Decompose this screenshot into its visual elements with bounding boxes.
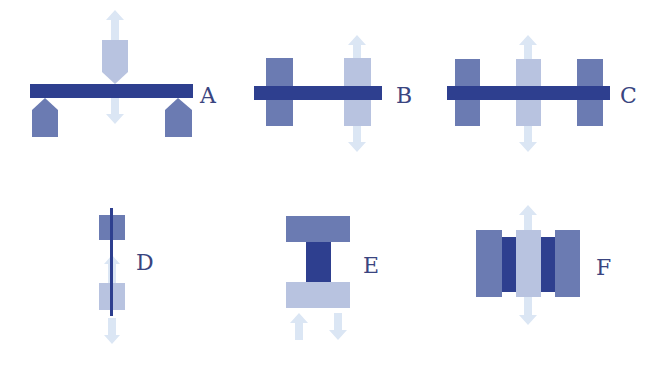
beam-a bbox=[30, 84, 193, 98]
label-f: F bbox=[596, 255, 611, 280]
sample-left-f bbox=[502, 237, 517, 292]
panel-b: B bbox=[254, 35, 412, 152]
arrow-up-f bbox=[519, 205, 537, 230]
panel-e: E bbox=[286, 216, 379, 340]
load-arrow-down-a bbox=[106, 98, 124, 124]
outer-block-left-f bbox=[476, 230, 502, 297]
arrow-down-b bbox=[348, 126, 366, 152]
plate-bottom-e bbox=[286, 282, 350, 308]
label-d: D bbox=[136, 250, 154, 275]
panel-f: F bbox=[476, 205, 611, 325]
label-c: C bbox=[620, 83, 637, 108]
support-right-a bbox=[165, 98, 192, 137]
label-b: B bbox=[396, 83, 412, 108]
beam-b bbox=[254, 86, 382, 100]
panel-d: D bbox=[99, 208, 154, 344]
arrow-up-e bbox=[290, 313, 308, 340]
center-block-f bbox=[516, 230, 541, 297]
sample-right-f bbox=[541, 237, 556, 292]
panel-a: A bbox=[30, 10, 217, 137]
sample-e bbox=[306, 242, 331, 282]
arrow-up-c bbox=[519, 35, 537, 59]
load-arrow-up-a bbox=[106, 10, 124, 40]
panel-c: C bbox=[447, 35, 637, 152]
label-e: E bbox=[363, 253, 379, 278]
arrow-down-c bbox=[519, 126, 537, 152]
arrow-up-b bbox=[348, 35, 366, 58]
outer-block-right-f bbox=[555, 230, 580, 297]
plate-top-e bbox=[286, 216, 350, 242]
fiber-d bbox=[110, 208, 113, 316]
label-a: A bbox=[199, 83, 217, 108]
arrow-down-d bbox=[104, 318, 120, 344]
beam-c bbox=[447, 86, 610, 100]
diagram-canvas: A B C D E bbox=[0, 0, 665, 366]
support-left-a bbox=[32, 98, 58, 137]
arrow-down-f bbox=[519, 297, 537, 325]
loading-pin-a bbox=[102, 40, 128, 84]
arrow-down-e bbox=[329, 313, 347, 340]
